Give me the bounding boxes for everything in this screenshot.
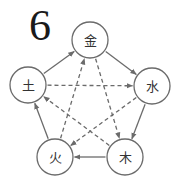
node-metal: 金 [72,22,108,58]
node-water: 水 [134,68,170,104]
overcoming-cycle-edges [44,59,137,146]
solid-arrow-fire-to-earth [35,103,48,138]
node-label: 水 [146,79,159,94]
node-label: 木 [119,150,132,165]
dashed-arrow-metal-to-wood [96,59,120,139]
solid-arrow-water-to-wood [132,104,145,139]
node-label: 火 [49,150,62,165]
dashed-arrow-water-to-fire [71,98,137,146]
dashed-arrow-fire-to-metal [61,59,85,139]
node-wood: 木 [107,139,143,175]
five-elements-diagram: 6 金水木火土 [0,0,179,183]
element-nodes: 金水木火土 [10,22,170,175]
dashed-arrow-earth-to-water [48,85,133,86]
dashed-arrow-wood-to-earth [44,97,110,146]
node-label: 土 [22,78,35,93]
node-fire: 火 [37,139,73,175]
cycle-graph: 金水木火土 [0,0,179,183]
solid-arrow-earth-to-metal [44,52,74,74]
node-label: 金 [84,33,97,48]
solid-arrow-metal-to-water [106,52,137,75]
node-earth: 土 [10,67,46,103]
